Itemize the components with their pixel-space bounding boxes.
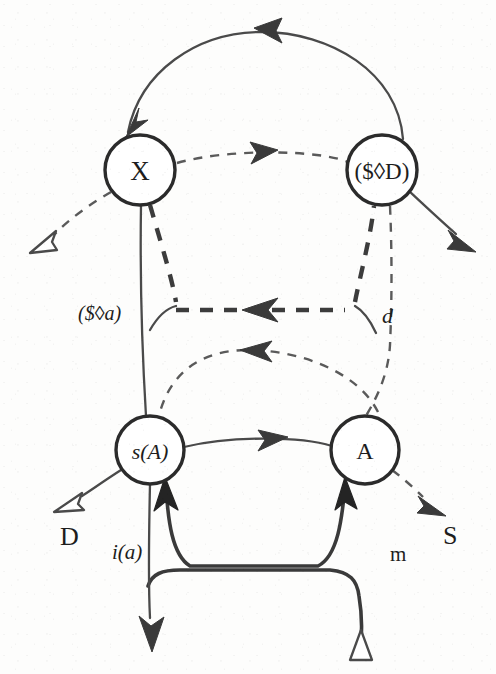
edge-a-out-right-path [392,470,423,497]
edge-x-to-sd [177,142,348,164]
arrowhead-sd-out-right [447,230,476,252]
arrowhead-hollow-x-out-left [30,231,57,253]
edge-loop-outer-path [148,570,362,640]
edge-label-sda: ($◊a) [78,302,122,325]
edge-loop-inner [154,477,357,566]
node-sA-label: s(A) [132,439,169,464]
edge-x-down-to-sa [141,205,146,416]
edge-sd-out-right [409,191,476,252]
edge-loop-inner-path [166,487,345,566]
edge-bracket-upper-left-curl [150,306,176,330]
edge-x-out-left [30,192,111,253]
arrowhead-hollow-sa-out-left [54,493,84,512]
edge-sa-to-a-path [184,439,332,447]
arrowhead-arc-a-to-sa [240,341,272,362]
diagram-canvas: X ($◊D) s(A) A ($◊a) d D i(a) m S [0,0,496,674]
edge-sa-out-left-path [82,470,121,496]
arrowhead-sa-to-a [258,430,288,451]
arrowhead-sa-down [139,616,164,652]
edge-sa-out-left [54,470,121,512]
edge-label-m: m [390,542,406,566]
node-A[interactable]: A [331,416,399,484]
node-SD-label: ($◊D) [355,159,410,184]
edge-label-ia: i(a) [112,540,142,564]
edge-arc-top-path [128,32,403,139]
edge-arc-top [126,18,403,139]
edge-label-d: d [382,303,394,328]
edge-bracket-upper [150,205,376,333]
edge-x-out-left-path [55,192,111,234]
graph-diagram-svg: X ($◊D) s(A) A ($◊a) d D i(a) m S [0,0,496,674]
edge-bracket-upper-right-curl [355,306,376,333]
arrowhead-hollow-loop-outer [350,630,372,660]
arrowhead-x-to-sd [250,142,278,164]
edge-sa-down [139,484,164,652]
edge-sa-to-a [184,430,332,451]
arrowhead-a-out-right [417,496,446,516]
edge-label-S: S [443,521,457,550]
edge-bracket-upper-right-leg [355,206,374,302]
edge-label-D: D [60,522,79,551]
node-SD[interactable]: ($◊D) [347,135,417,205]
node-X[interactable]: X [105,135,175,205]
node-sA[interactable]: s(A) [116,416,184,484]
arrowhead-arc-top-apex [254,18,282,43]
edge-bracket-upper-left-leg [150,205,176,302]
edge-loop-outer [148,570,372,660]
node-X-label: X [130,156,150,186]
edge-a-out-right [392,470,446,516]
edge-sa-down-path [149,484,150,618]
edge-arc-a-to-sa [160,341,378,412]
edge-sd-out-right-path [409,191,456,234]
edge-x-down-to-sa-path [141,205,146,416]
node-A-label: A [356,438,374,464]
